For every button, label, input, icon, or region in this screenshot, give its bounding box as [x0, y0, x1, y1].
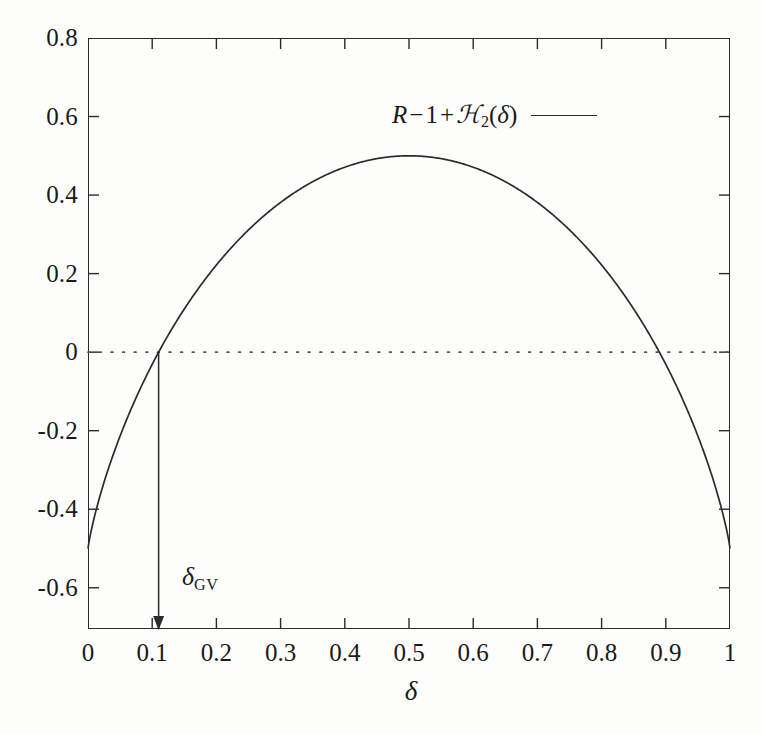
legend-symbol-entropy: ℋ	[456, 100, 481, 129]
gv-subscript: GV	[194, 576, 218, 593]
y-tick-label: -0.2	[4, 418, 78, 443]
y-tick-label: 0.4	[4, 182, 78, 207]
y-tick-label: 0.6	[4, 104, 78, 129]
y-tick-label: 0.2	[4, 261, 78, 286]
legend-paren-close: )	[509, 101, 517, 128]
gv-arrow-annotation	[153, 352, 164, 630]
legend-entry-label: R−1+ℋ2(δ)	[392, 100, 517, 131]
gv-annotation-label: δGV	[182, 562, 218, 594]
legend-symbol-minus: −	[407, 101, 425, 128]
legend-line-sample	[531, 115, 597, 116]
y-tick-label: 0.8	[4, 25, 78, 50]
x-tick-label: 1	[690, 640, 761, 665]
legend-symbol-plus: +	[438, 101, 456, 128]
legend-symbol-delta: δ	[497, 101, 509, 128]
x-axis-title: δ	[0, 676, 761, 707]
gv-delta-symbol: δ	[182, 562, 194, 591]
y-tick-label: -0.6	[4, 575, 78, 600]
legend-symbol-r: R	[392, 101, 407, 128]
legend-symbol-base: 2	[481, 113, 489, 130]
chart-figure: 0.80.60.40.20-0.2-0.4-0.6 00.10.20.30.40…	[0, 0, 761, 734]
chart-legend: R−1+ℋ2(δ)	[392, 100, 597, 131]
y-tick-label: 0	[4, 339, 78, 364]
y-tick-label: -0.4	[4, 496, 78, 521]
gv-arrow-head	[153, 616, 164, 630]
legend-symbol-one: 1	[425, 101, 438, 128]
